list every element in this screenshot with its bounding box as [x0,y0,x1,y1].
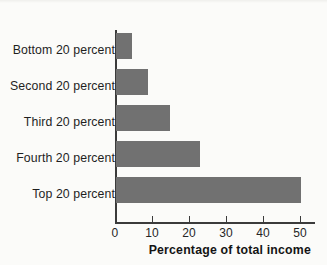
x-tick-0 [115,216,116,223]
chart-page: Bottom 20 percent Second 20 percent Thir… [0,0,327,265]
category-label-second-20: Second 20 percent [10,79,115,93]
x-tick-label-50: 50 [293,226,307,240]
x-tick-50 [300,216,301,223]
bar-top-20 [116,177,301,203]
x-tick-40 [263,216,264,223]
x-tick-20 [189,216,190,223]
x-tick-30 [226,216,227,223]
bar-third-20 [116,105,170,131]
x-axis-line [115,222,315,224]
bar-second-20 [116,69,148,95]
x-tick-label-30: 30 [219,226,233,240]
x-tick-label-0: 0 [112,226,119,240]
category-label-third-20: Third 20 percent [24,115,115,129]
x-tick-10 [152,216,153,223]
bar-bottom-20 [116,33,132,59]
x-tick-label-40: 40 [256,226,270,240]
category-label-top-20: Top 20 percent [32,187,115,201]
plot-area: 0 10 20 30 40 50 [115,30,307,222]
x-tick-label-10: 10 [145,226,159,240]
category-label-fourth-20: Fourth 20 percent [16,151,115,165]
x-tick-label-20: 20 [182,226,196,240]
bar-fourth-20 [116,141,200,167]
x-axis-title: Percentage of total income [149,243,311,257]
bar-chart: Bottom 20 percent Second 20 percent Thir… [0,0,327,265]
category-label-bottom-20: Bottom 20 percent [13,43,115,57]
